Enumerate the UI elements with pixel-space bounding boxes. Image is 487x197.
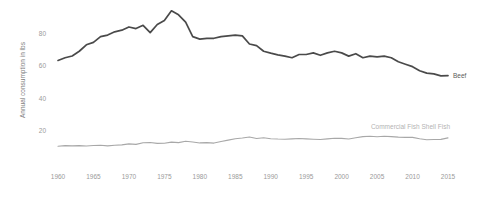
x-tick-label: 1970 — [122, 173, 137, 180]
y-axis-title: Annual consumption in lbs — [19, 41, 27, 118]
x-tick-label: 1985 — [228, 173, 243, 180]
x-tick-label: 1965 — [86, 173, 101, 180]
y-tick-label: 20 — [39, 127, 47, 134]
y-tick-label: 40 — [39, 95, 47, 102]
y-tick-label: 60 — [39, 62, 47, 69]
series-label-fish: Commercial Fish Shell Fish — [371, 123, 450, 130]
x-tick-label: 1980 — [193, 173, 208, 180]
x-tick-label: 2000 — [334, 173, 349, 180]
x-tick-label: 1960 — [51, 173, 66, 180]
y-axis-tick-labels: 20406080 — [39, 30, 47, 134]
x-tick-label: 1995 — [299, 173, 314, 180]
x-tick-label: 2010 — [405, 173, 420, 180]
x-tick-label: 2015 — [441, 173, 456, 180]
series-label-beef: Beef — [453, 72, 467, 79]
x-axis-tick-labels: 1960196519701975198019851990199520002005… — [51, 173, 456, 180]
consumption-line-chart: Annual consumption in lbs 20406080 19601… — [0, 0, 487, 197]
chart-plot-area: Annual consumption in lbs 20406080 19601… — [0, 0, 487, 197]
x-tick-label: 1990 — [263, 173, 278, 180]
x-tick-label: 1975 — [157, 173, 172, 180]
y-axis-title-group: Annual consumption in lbs — [19, 41, 27, 118]
x-tick-label: 2005 — [370, 173, 385, 180]
series-line-beef — [58, 11, 448, 76]
series-line-fish — [58, 136, 448, 146]
y-tick-label: 80 — [39, 30, 47, 37]
series-inline-labels: BeefCommercial Fish Shell Fish — [371, 72, 467, 130]
